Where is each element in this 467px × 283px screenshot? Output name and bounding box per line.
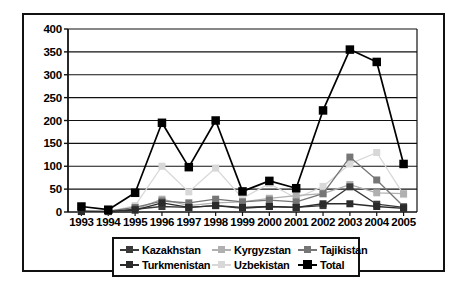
data-point-uzbekistan-1997 (185, 188, 192, 195)
data-point-kyrgyzstan-2001 (293, 192, 300, 199)
legend-marker-turkmenistan-icon (120, 259, 139, 270)
legend-label-tajikistan: Tajikistan (320, 244, 367, 256)
data-point-total-1999 (238, 187, 247, 196)
data-point-total-1996 (158, 119, 167, 128)
legend-square-marker (218, 246, 225, 253)
data-point-turkmenistan-1997 (185, 204, 192, 211)
data-point-turkmenistan-2000 (266, 203, 273, 210)
y-axis-label-100: 100 (43, 160, 62, 172)
data-point-total-1994 (104, 205, 113, 214)
legend-square-marker (218, 261, 225, 268)
x-axis-label-1993: 1993 (69, 216, 93, 228)
legend-marker-total-icon (298, 259, 317, 270)
legend-square-marker (304, 246, 311, 253)
data-point-total-2003 (346, 45, 355, 54)
data-point-turkmenistan-2005 (400, 205, 407, 212)
legend-square-marker (126, 246, 133, 253)
legend-row-1: KazakhstanKyrgyzstanTajikistan (120, 242, 354, 257)
y-axis-label-50: 50 (50, 183, 62, 195)
chart-figure: 050100150200250300350400 199319941995199… (22, 13, 445, 272)
x-axis-label-1994: 1994 (96, 216, 120, 228)
legend-item-total[interactable]: Total (298, 259, 364, 271)
data-point-tajikistan-2000 (266, 197, 273, 204)
data-point-turkmenistan-1998 (212, 202, 219, 209)
x-axis-label-1997: 1997 (177, 216, 201, 228)
data-point-turkmenistan-2002 (320, 200, 327, 207)
x-axis-label-1998: 1998 (203, 216, 227, 228)
x-axis-label-2001: 2001 (284, 216, 308, 228)
data-point-tajikistan-2004 (373, 176, 380, 183)
x-axis-label-2002: 2002 (311, 216, 335, 228)
legend-item-tajikistan[interactable]: Tajikistan (298, 244, 364, 256)
legend-label-kyrgyzstan: Kyrgyzstan (234, 244, 291, 256)
data-point-turkmenistan-2003 (346, 200, 353, 207)
x-axis-label-2000: 2000 (257, 216, 281, 228)
x-axis-label-1999: 1999 (230, 216, 254, 228)
legend-square-marker (303, 260, 312, 269)
x-axis-label-2005: 2005 (391, 216, 415, 228)
data-point-kazakhstan-2003 (346, 183, 353, 190)
y-axis-label-150: 150 (43, 137, 62, 149)
x-axis-label-2004: 2004 (365, 216, 389, 228)
data-point-kyrgyzstan-2004 (373, 189, 380, 196)
data-point-turkmenistan-2004 (373, 203, 380, 210)
legend-marker-uzbekistan-icon (212, 259, 231, 270)
data-point-turkmenistan-1995 (132, 207, 139, 214)
data-point-total-2002 (319, 106, 328, 115)
legend-item-kazakhstan[interactable]: Kazakhstan (120, 244, 212, 256)
x-axis-label-1995: 1995 (123, 216, 147, 228)
data-point-tajikistan-2003 (346, 154, 353, 161)
y-axis-label-200: 200 (43, 115, 62, 127)
y-axis-label-350: 350 (43, 46, 62, 58)
x-axis-label-2003: 2003 (338, 216, 362, 228)
legend-row-2: TurkmenistanUzbekistanTotal (120, 257, 354, 272)
y-axis-label-300: 300 (43, 69, 62, 81)
y-axis-label-250: 250 (43, 92, 62, 104)
legend-marker-kazakhstan-icon (120, 244, 139, 255)
legend-label-kazakhstan: Kazakhstan (142, 244, 201, 256)
legend-label-total: Total (320, 259, 344, 271)
data-point-kyrgyzstan-2005 (400, 190, 407, 197)
data-point-total-2004 (372, 58, 381, 67)
data-point-turkmenistan-2001 (293, 204, 300, 211)
y-axis-label-400: 400 (43, 23, 62, 35)
data-point-tajikistan-2002 (320, 190, 327, 197)
legend-label-turkmenistan: Turkmenistan (142, 259, 210, 271)
x-axis-label-1996: 1996 (150, 216, 174, 228)
legend-marker-kyrgyzstan-icon (212, 244, 231, 255)
chart-legend: KazakhstanKyrgyzstanTajikistanTurkmenist… (112, 237, 360, 277)
data-point-total-2005 (399, 160, 408, 169)
x-axis-tick-labels: 1993199419951996199719981999200020012002… (68, 216, 417, 232)
data-point-total-2001 (292, 184, 301, 193)
data-point-uzbekistan-1996 (158, 163, 165, 170)
data-point-tajikistan-1998 (212, 196, 219, 203)
legend-item-kyrgyzstan[interactable]: Kyrgyzstan (212, 244, 298, 256)
data-point-total-1993 (77, 202, 86, 211)
data-point-uzbekistan-1998 (212, 165, 219, 172)
legend-item-uzbekistan[interactable]: Uzbekistan (212, 259, 298, 271)
legend-label-uzbekistan: Uzbekistan (234, 259, 290, 271)
legend-square-marker (126, 261, 133, 268)
data-point-total-1998 (211, 116, 220, 125)
data-point-total-1997 (185, 163, 194, 172)
line-chart-svg (68, 29, 417, 212)
data-point-uzbekistan-2004 (373, 149, 380, 156)
data-point-turkmenistan-1999 (239, 204, 246, 211)
plot-area (68, 29, 417, 212)
data-point-uzbekistan-2002 (320, 183, 327, 190)
data-point-total-2000 (265, 177, 274, 186)
legend-item-turkmenistan[interactable]: Turkmenistan (120, 259, 212, 271)
data-point-total-1995 (131, 189, 140, 198)
y-axis-tick-labels: 050100150200250300350400 (24, 29, 62, 212)
data-point-turkmenistan-1996 (158, 199, 165, 206)
legend-marker-tajikistan-icon (298, 244, 317, 255)
y-axis-label-0: 0 (56, 206, 62, 218)
